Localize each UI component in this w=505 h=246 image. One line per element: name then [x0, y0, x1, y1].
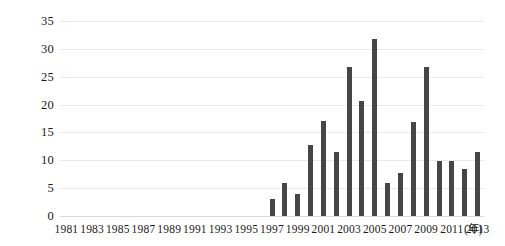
bar-2001 [321, 121, 326, 216]
bar-series [60, 21, 484, 216]
y-tick-label-0: 0 [0, 210, 54, 223]
bar-2011 [449, 161, 454, 216]
y-tick-label-15: 15 [0, 126, 54, 139]
x-tick-label-2003: 2003 [337, 224, 361, 236]
x-tick-label-2007: 2007 [389, 224, 413, 236]
bar-2010 [437, 161, 442, 216]
x-tick-label-1981: 1981 [55, 224, 79, 236]
bar-1997 [270, 199, 275, 216]
x-tick-label-1983: 1983 [80, 224, 104, 236]
x-tick-label-2001: 2001 [311, 224, 335, 236]
x-tick-label-1991: 1991 [183, 224, 207, 236]
x-tick-label-1995: 1995 [234, 224, 258, 236]
bar-2009 [424, 67, 429, 216]
bar-2008 [411, 122, 416, 216]
x-tick-label-2013: 2013 [466, 224, 490, 236]
y-tick-label-20: 20 [0, 98, 54, 111]
gridline-0 [60, 216, 484, 217]
bar-chart: 05101520253035 (年) 198119831985198719891… [0, 0, 505, 246]
x-tick-label-2005: 2005 [363, 224, 387, 236]
y-tick-label-25: 25 [0, 70, 54, 83]
bar-2002 [334, 152, 339, 216]
bar-2006 [385, 183, 390, 216]
y-tick-label-30: 30 [0, 43, 54, 56]
x-tick-label-1999: 1999 [286, 224, 310, 236]
x-tick-label-2009: 2009 [414, 224, 438, 236]
y-axis-tick-labels: 05101520253035 [0, 0, 54, 246]
x-tick-label-1993: 1993 [209, 224, 233, 236]
x-tick-label-2011: 2011 [440, 224, 463, 236]
x-tick-label-1989: 1989 [157, 224, 181, 236]
bar-2007 [398, 173, 403, 216]
plot-area [60, 21, 484, 216]
x-tick-label-1987: 1987 [132, 224, 156, 236]
x-tick-label-1985: 1985 [106, 224, 130, 236]
bar-1999 [295, 194, 300, 216]
bar-2000 [308, 145, 313, 216]
bar-2012 [462, 169, 467, 216]
x-tick-label-1997: 1997 [260, 224, 284, 236]
x-axis-unit-label: (年) [464, 224, 483, 236]
x-axis-tick-labels: (年) 198119831985198719891991199319951997… [0, 224, 505, 244]
y-tick-label-10: 10 [0, 154, 54, 167]
y-tick-label-5: 5 [0, 182, 54, 195]
y-tick-label-35: 35 [0, 15, 54, 28]
bar-1998 [282, 183, 287, 216]
bar-2004 [359, 101, 364, 216]
bar-2005 [372, 39, 377, 216]
bar-2003 [347, 67, 352, 216]
bar-2013 [475, 152, 480, 216]
